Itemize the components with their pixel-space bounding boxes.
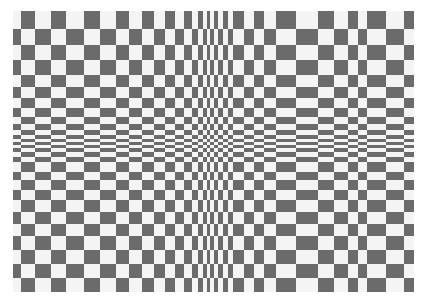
checker-square <box>276 145 296 148</box>
checker-square <box>100 224 116 236</box>
checker-square <box>318 148 334 152</box>
checker-square <box>386 75 404 87</box>
checker-square <box>203 236 207 250</box>
checker-square <box>129 117 142 124</box>
checker-square <box>254 152 264 157</box>
checker-square <box>165 264 175 278</box>
checker-square <box>13 148 21 152</box>
checker-square <box>100 98 116 108</box>
checker-square <box>198 157 203 162</box>
checker-square <box>404 162 414 172</box>
checker-square <box>358 124 367 130</box>
checker-square <box>184 124 192 130</box>
checker-square <box>129 87 142 98</box>
checker-square <box>264 87 276 98</box>
checker-square <box>129 108 142 117</box>
checker-square <box>142 200 154 212</box>
checker-square <box>223 98 228 108</box>
checker-square <box>210 157 214 162</box>
checker-square <box>223 60 228 75</box>
checker-square <box>84 135 100 139</box>
checker-square <box>207 200 210 212</box>
checker-square <box>404 145 414 148</box>
checker-square <box>51 190 66 200</box>
checker-square <box>100 130 116 135</box>
checker-square <box>116 108 129 117</box>
checker-square <box>175 108 184 117</box>
checker-square <box>142 264 154 278</box>
checker-square <box>244 236 254 250</box>
checker-square <box>21 75 35 87</box>
checker-square <box>129 45 142 60</box>
checker-square <box>142 278 154 292</box>
checker-square <box>228 124 233 130</box>
checker-square <box>66 124 84 130</box>
checker-square <box>192 157 198 162</box>
checker-square <box>334 152 348 157</box>
checker-square <box>404 152 414 157</box>
checker-square <box>192 224 198 236</box>
checker-square <box>13 130 21 135</box>
checker-square <box>254 278 264 292</box>
checker-square <box>192 11 198 29</box>
checker-square <box>233 139 244 142</box>
checker-square <box>129 135 142 139</box>
checker-square <box>214 236 218 250</box>
checker-square <box>84 108 100 117</box>
checker-square <box>207 180 210 190</box>
checker-square <box>210 145 214 148</box>
checker-square <box>165 162 175 172</box>
checker-square <box>116 152 129 157</box>
checker-square <box>404 264 414 278</box>
checker-square <box>296 212 318 224</box>
checker-square <box>254 224 264 236</box>
checker-square <box>129 75 142 87</box>
checker-square <box>367 224 386 236</box>
checker-square <box>175 278 184 292</box>
checker-square <box>116 212 129 224</box>
checker-square <box>358 278 367 292</box>
checker-square <box>21 11 35 29</box>
checker-square <box>198 75 203 87</box>
checker-square <box>84 29 100 45</box>
checker-square <box>218 212 223 224</box>
checker-square <box>404 130 414 135</box>
checker-square <box>348 190 358 200</box>
checker-square <box>264 212 276 224</box>
checker-square <box>367 11 386 29</box>
checker-square <box>244 224 254 236</box>
checker-square <box>100 264 116 278</box>
checker-square <box>334 250 348 264</box>
checker-square <box>367 117 386 124</box>
checker-square <box>296 200 318 212</box>
checker-square <box>207 145 210 148</box>
checker-square <box>116 135 129 139</box>
checker-square <box>192 148 198 152</box>
checker-square <box>142 11 154 29</box>
checker-square <box>184 60 192 75</box>
checker-square <box>84 212 100 224</box>
checker-square <box>84 278 100 292</box>
checker-square <box>13 11 21 29</box>
checker-square <box>233 145 244 148</box>
checker-square <box>244 157 254 162</box>
checker-square <box>276 108 296 117</box>
checker-square <box>184 135 192 139</box>
checker-square <box>154 157 165 162</box>
checker-square <box>154 145 165 148</box>
checker-square <box>207 250 210 264</box>
checker-square <box>318 278 334 292</box>
checker-square <box>192 75 198 87</box>
checker-square <box>223 278 228 292</box>
checker-square <box>116 87 129 98</box>
checker-square <box>142 172 154 180</box>
checker-square <box>84 224 100 236</box>
checker-square <box>184 130 192 135</box>
checker-square <box>35 152 51 157</box>
checker-square <box>203 180 207 190</box>
checker-square <box>244 75 254 87</box>
checker-square <box>386 236 404 250</box>
checker-square <box>318 212 334 224</box>
checker-square <box>207 212 210 224</box>
checker-square <box>233 29 244 45</box>
